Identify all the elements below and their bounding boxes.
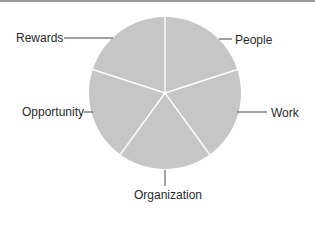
label-opportunity: Opportunity [22, 105, 84, 119]
label-work: Work [271, 106, 299, 120]
label-people: People [235, 33, 272, 47]
label-rewards: Rewards [16, 31, 63, 45]
label-organization: Organization [134, 188, 202, 202]
